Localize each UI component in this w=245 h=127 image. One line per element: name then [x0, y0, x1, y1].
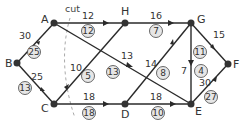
svg-text:30: 30	[199, 77, 211, 88]
node-B: B	[5, 57, 21, 70]
cut-label: cut	[65, 3, 80, 14]
svg-text:H: H	[121, 5, 129, 18]
edge-B-A: 30 25	[17, 23, 54, 63]
svg-text:14: 14	[145, 58, 157, 69]
svg-text:D: D	[121, 108, 129, 121]
svg-text:25: 25	[28, 47, 39, 57]
svg-text:27: 27	[205, 92, 216, 102]
edge-H-G: 16 7	[125, 10, 191, 38]
svg-text:7: 7	[181, 65, 187, 76]
flow-network-diagram: cut 30 25 25 13 12 12 13 13 10 5	[0, 0, 245, 127]
edge-B-C: 25 13	[17, 63, 54, 104]
svg-text:5: 5	[85, 71, 91, 81]
svg-text:F: F	[233, 58, 239, 71]
svg-text:18: 18	[83, 91, 95, 102]
edge-G-F: 15 11	[191, 23, 228, 64]
svg-text:30: 30	[19, 30, 31, 41]
svg-text:13: 13	[121, 50, 133, 61]
node-A: A	[41, 13, 58, 27]
svg-text:C: C	[41, 102, 49, 115]
node-G: G	[188, 13, 206, 27]
svg-text:7: 7	[153, 26, 159, 36]
edge-A-H: 12 12	[54, 10, 125, 38]
node-H: H	[121, 5, 129, 27]
edge-D-E: 18 10	[125, 91, 191, 120]
node-D: D	[121, 101, 129, 122]
svg-text:A: A	[41, 13, 49, 26]
svg-text:16: 16	[150, 10, 162, 21]
svg-text:10: 10	[152, 108, 164, 118]
svg-text:15: 15	[213, 29, 225, 40]
edge-C-D: 18 18	[54, 91, 125, 120]
svg-text:E: E	[195, 105, 202, 118]
svg-text:11: 11	[194, 47, 205, 57]
svg-text:10: 10	[70, 62, 82, 73]
svg-text:13: 13	[19, 83, 30, 93]
svg-text:12: 12	[82, 10, 94, 21]
node-C: C	[41, 101, 58, 116]
node-E: E	[188, 101, 203, 119]
svg-text:18: 18	[83, 108, 95, 118]
svg-text:18: 18	[150, 91, 162, 102]
node-F: F	[225, 58, 240, 71]
svg-text:G: G	[197, 13, 206, 26]
svg-text:4: 4	[198, 66, 204, 76]
edge-G-E: 7 4	[181, 23, 208, 104]
svg-text:B: B	[5, 57, 13, 70]
svg-text:13: 13	[107, 67, 118, 77]
svg-text:8: 8	[160, 68, 166, 78]
svg-text:25: 25	[31, 71, 43, 82]
svg-text:12: 12	[82, 26, 93, 36]
